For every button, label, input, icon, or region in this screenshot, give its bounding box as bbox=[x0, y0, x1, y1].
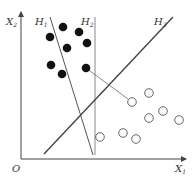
svm-hyperplane-diagram: X2 O X1 H1 H2 H3 bbox=[0, 0, 193, 186]
y-axis-label: X2 bbox=[5, 16, 17, 28]
h2-label: H2 bbox=[80, 16, 94, 28]
hyperplane-h1 bbox=[50, 17, 93, 155]
connector-line bbox=[86, 68, 128, 99]
class-open-points bbox=[96, 89, 184, 144]
class-filled-points bbox=[46, 23, 92, 79]
origin-label: O bbox=[12, 163, 20, 174]
hyperplane-h3 bbox=[44, 17, 173, 154]
x-axis-label: X1 bbox=[174, 163, 186, 175]
h3-label: H3 bbox=[153, 16, 167, 28]
h1-label: H1 bbox=[34, 16, 48, 28]
